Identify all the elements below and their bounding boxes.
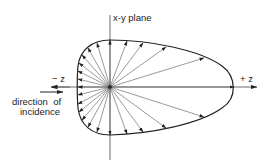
- scattering-ray: [110, 43, 143, 87]
- origin-dot: [108, 85, 112, 89]
- scattering-ray: [110, 87, 143, 132]
- plus-z-label: + z: [240, 74, 253, 84]
- plane-label: x-y plane: [113, 13, 152, 23]
- scattering-ray: [110, 87, 204, 117]
- scattering-ray: [110, 87, 166, 128]
- scattering-ray: [88, 48, 110, 87]
- scattering-ray: [110, 58, 204, 87]
- scattering-ray: [110, 87, 127, 134]
- scattering-envelope: [77, 40, 233, 135]
- scattering-diagram: [0, 0, 270, 167]
- incidence-label-line2: incidence: [20, 107, 60, 117]
- scattering-ray: [97, 43, 110, 87]
- minus-z-label: − z: [52, 74, 65, 84]
- scattering-ray: [82, 87, 110, 120]
- scattering-ray: [110, 41, 127, 87]
- scattering-ray: [82, 55, 110, 87]
- scattering-ray: [97, 87, 110, 132]
- scattering-ray: [110, 47, 166, 87]
- scattering-rays: [78, 40, 234, 135]
